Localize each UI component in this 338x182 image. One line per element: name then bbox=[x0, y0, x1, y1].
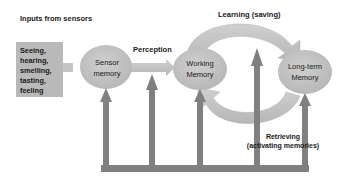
retrieving-arrow bbox=[198, 88, 300, 124]
perception-label: Perception bbox=[133, 46, 172, 55]
retrieving-label: Retrieving (activating memories) bbox=[238, 132, 328, 150]
longterm-memory-label: Long-term Memory bbox=[282, 61, 328, 83]
input-arrow bbox=[63, 63, 73, 72]
perception-arrow bbox=[131, 59, 175, 76]
sensor-memory-label: Sensor memory bbox=[84, 57, 130, 79]
senses-text: Seeing, hearing, smelling, tasting, feel… bbox=[20, 46, 52, 96]
working-memory-label: Working Memory bbox=[177, 58, 223, 80]
inputs-title: Inputs from sensors bbox=[20, 15, 92, 24]
memory-diagram: Inputs from sensors Seeing, hearing, sme… bbox=[0, 0, 338, 182]
learning-label: Learning (saving) bbox=[218, 11, 281, 20]
